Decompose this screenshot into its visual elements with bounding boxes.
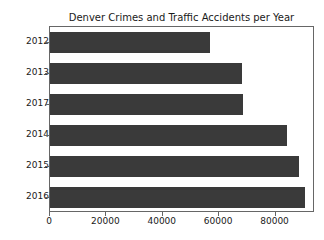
y-tick-label-2012: 2012 bbox=[15, 37, 49, 46]
bar-2016 bbox=[50, 187, 305, 208]
chart-screenshot: Denver Crimes and Traffic Accidents per … bbox=[0, 0, 324, 240]
x-tick-label-80000: 80000 bbox=[260, 217, 289, 226]
x-tick-label-40000: 40000 bbox=[147, 217, 176, 226]
bar-2013 bbox=[50, 63, 242, 84]
y-tick-label-2013: 2013 bbox=[15, 68, 49, 77]
bar-fill bbox=[50, 125, 287, 146]
plot-area bbox=[49, 26, 314, 212]
y-tick-label-2017: 2017 bbox=[15, 99, 49, 108]
x-tick-label-20000: 20000 bbox=[91, 217, 120, 226]
y-tick-label-2016: 2016 bbox=[15, 192, 49, 201]
bar-fill bbox=[50, 94, 243, 115]
y-axis: 201220132017201420152016 bbox=[6, 26, 49, 212]
bar-2017 bbox=[50, 94, 243, 115]
bar-fill bbox=[50, 156, 299, 177]
x-axis: 020000400006000080000 bbox=[49, 212, 314, 234]
y-tick-label-2015: 2015 bbox=[15, 161, 49, 170]
bar-2012 bbox=[50, 32, 210, 53]
figure-canvas: Denver Crimes and Traffic Accidents per … bbox=[6, 6, 318, 234]
x-tick-label-0: 0 bbox=[46, 217, 52, 226]
bar-2014 bbox=[50, 125, 287, 146]
bar-fill bbox=[50, 63, 242, 84]
bar-fill bbox=[50, 32, 210, 53]
page-title: Denver Crimes and Traffic Accidents per … bbox=[49, 12, 314, 23]
y-tick-label-2014: 2014 bbox=[15, 130, 49, 139]
x-tick-label-60000: 60000 bbox=[204, 217, 233, 226]
bar-2015 bbox=[50, 156, 299, 177]
bar-fill bbox=[50, 187, 305, 208]
